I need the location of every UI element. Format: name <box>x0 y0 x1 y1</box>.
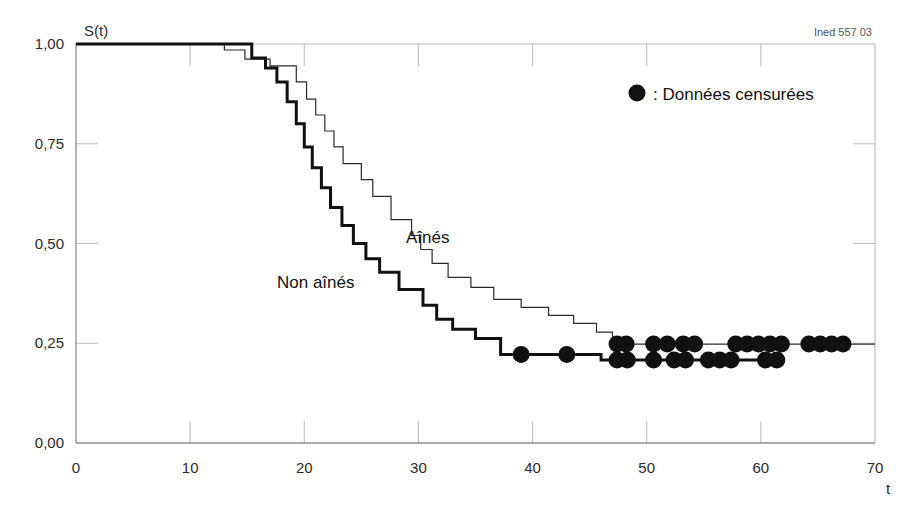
y-tick-label: 0,50 <box>35 235 64 252</box>
y-tick-label: 1,00 <box>35 35 64 52</box>
y-axis-title: S(t) <box>84 22 108 39</box>
x-tick-label: 10 <box>182 459 199 476</box>
censored-point-marker <box>835 336 852 353</box>
censored-point-marker <box>773 336 790 353</box>
censored-point-marker <box>513 346 530 363</box>
censored-point-marker <box>686 336 703 353</box>
censored-marker-icon <box>629 85 646 102</box>
censored-point-marker <box>558 346 575 363</box>
y-tick-label: 0,75 <box>35 135 64 152</box>
censored-point-marker <box>619 352 636 369</box>
censored-point-marker <box>723 352 740 369</box>
x-tick-label: 20 <box>296 459 313 476</box>
x-tick-label: 70 <box>867 459 884 476</box>
x-tick-label: 50 <box>638 459 655 476</box>
censored-point-marker <box>677 352 694 369</box>
legend: : Données censurées <box>629 85 814 105</box>
source-note: Ined 557 03 <box>814 26 872 38</box>
survival-chart-figure: 0,000,250,500,751,00 010203040506070 S(t… <box>0 0 924 510</box>
series-label-non-aines: Non aînés <box>277 273 355 292</box>
series-label-aines: Aînés <box>406 228 449 247</box>
x-tick-label: 30 <box>410 459 427 476</box>
x-tick-label: 40 <box>524 459 541 476</box>
plot-background <box>0 0 924 510</box>
x-tick-label: 0 <box>72 459 80 476</box>
legend-label: : Données censurées <box>653 85 814 104</box>
censored-point-marker <box>768 352 785 369</box>
y-tick-label: 0,00 <box>35 434 64 451</box>
y-tick-label: 0,25 <box>35 334 64 351</box>
x-tick-label: 60 <box>753 459 770 476</box>
censored-point-marker <box>659 336 676 353</box>
censored-point-marker <box>645 352 662 369</box>
survival-plot-canvas: 0,000,250,500,751,00 010203040506070 S(t… <box>0 0 924 510</box>
censored-point-marker <box>618 336 635 353</box>
